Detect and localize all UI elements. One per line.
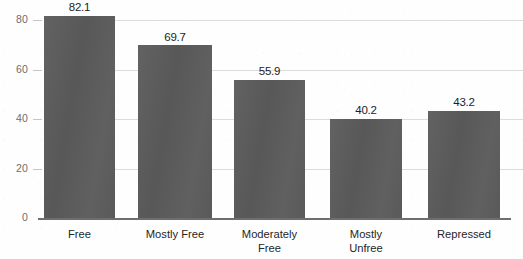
bar-moderately-free[interactable] <box>234 80 305 218</box>
bar-free[interactable] <box>44 16 115 218</box>
y-tick-label-60: 60 <box>2 64 28 75</box>
x-category-label-line: Free <box>229 242 310 256</box>
bar-value-repressed: 43.2 <box>428 96 500 109</box>
y-tick-mark-60 <box>33 70 42 71</box>
x-category-label-line: Mostly <box>326 228 406 242</box>
x-category-label-line: Moderately <box>229 228 310 242</box>
gridline-80 <box>44 20 523 21</box>
x-category-label-repressed: Repressed <box>424 228 504 242</box>
bar-value-mostly-free: 69.7 <box>138 31 212 44</box>
bar-value-mostly-unfree: 40.2 <box>330 104 402 117</box>
x-category-label-mostly-unfree: Mostly Unfree <box>326 228 406 255</box>
x-category-label-line: Free <box>38 228 121 242</box>
y-tick-mark-20 <box>33 169 42 170</box>
y-tick-mark-40 <box>33 119 42 120</box>
bar-mostly-unfree[interactable] <box>330 119 402 219</box>
x-category-label-line: Mostly Free <box>133 228 217 242</box>
y-axis: 80 60 40 20 0 <box>0 0 44 259</box>
x-category-label-moderately-free: Moderately Free <box>229 228 310 255</box>
bar-value-moderately-free: 55.9 <box>234 65 305 78</box>
x-category-label-mostly-free: Mostly Free <box>133 228 217 242</box>
x-axis-line <box>38 218 511 220</box>
y-tick-label-0: 0 <box>2 212 28 223</box>
x-category-label-line: Unfree <box>326 242 406 256</box>
bar-value-free: 82.1 <box>44 1 115 14</box>
bar-mostly-free[interactable] <box>138 45 212 218</box>
bar-chart: 80 60 40 20 0 82.1 69.7 55.9 40.2 43.2 F… <box>0 0 523 259</box>
y-tick-label-40: 40 <box>2 113 28 124</box>
y-tick-label-20: 20 <box>2 163 28 174</box>
y-tick-label-80: 80 <box>2 14 28 25</box>
x-category-label-free: Free <box>38 228 121 242</box>
bar-repressed[interactable] <box>428 111 500 218</box>
y-tick-mark-80 <box>33 20 42 21</box>
x-category-label-line: Repressed <box>424 228 504 242</box>
